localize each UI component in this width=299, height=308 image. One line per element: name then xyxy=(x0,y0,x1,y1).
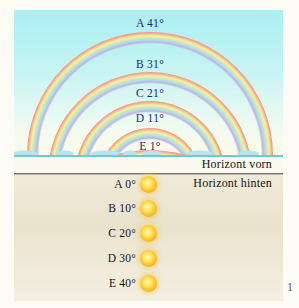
sun-label-C: C 20° xyxy=(76,227,136,240)
arc-label-E: E 1° xyxy=(139,140,160,153)
sun-label-E: E 40° xyxy=(76,277,136,290)
arc-label-B: B 31° xyxy=(136,58,164,71)
page-number: 1 xyxy=(287,280,293,294)
arc-label-A: A 41° xyxy=(136,17,164,30)
horizon-front-label: Horizont vorn xyxy=(202,158,272,171)
sun-label-A: A 0° xyxy=(76,178,136,191)
horizon-back-label: Horizont hinten xyxy=(193,177,272,190)
sun-icon xyxy=(140,200,157,217)
sun-icon xyxy=(140,176,157,193)
sun-label-B: B 10° xyxy=(76,202,136,215)
sun-label-D: D 30° xyxy=(76,252,136,265)
arc-label-C: C 21° xyxy=(136,87,164,100)
sun-icon xyxy=(140,275,157,292)
sun-icon xyxy=(140,250,157,267)
sun-icon xyxy=(140,225,157,242)
back-horizon-line xyxy=(14,173,283,174)
rainbow-elevation-diagram: A 41°B 31°C 21°D 11°E 1° Horizont vorn H… xyxy=(14,10,283,301)
arc-label-D: D 11° xyxy=(136,112,164,125)
